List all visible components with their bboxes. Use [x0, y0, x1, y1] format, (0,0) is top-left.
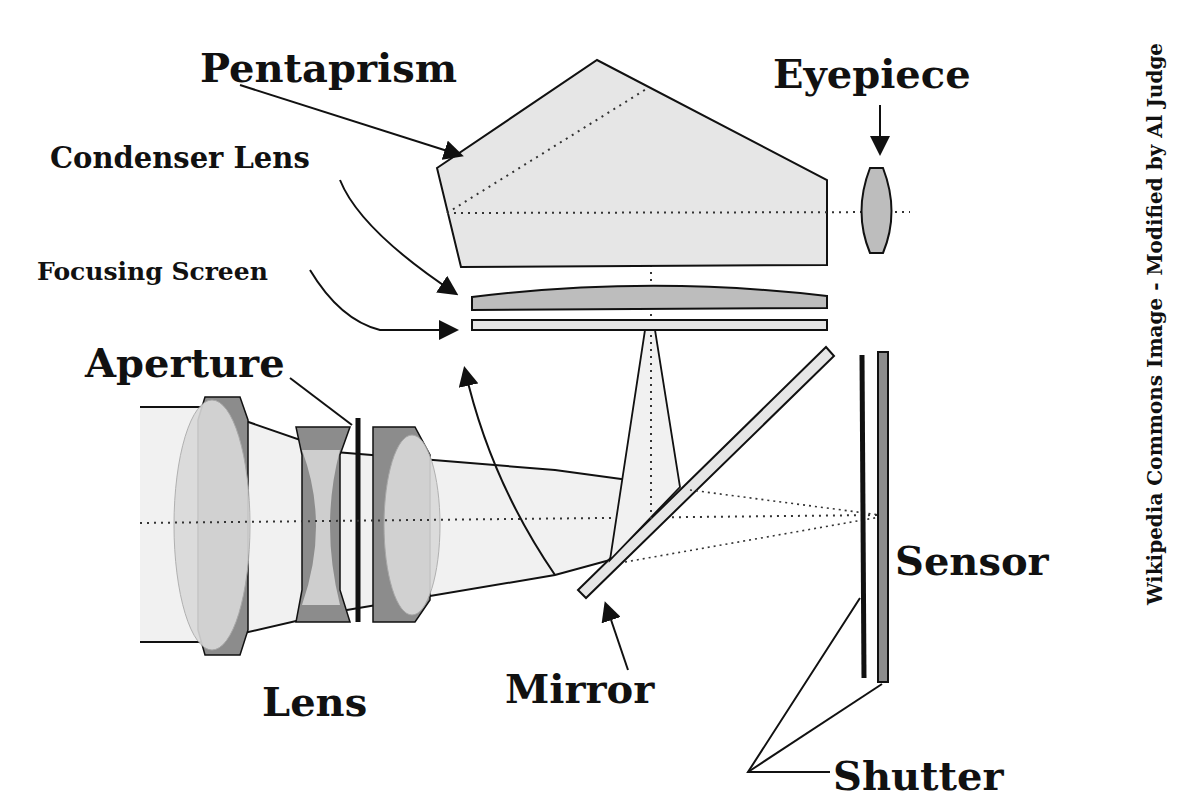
- label-focusing-screen: Focusing Screen: [37, 257, 268, 286]
- credit-text: Wikipedia Commons Image - Modified by Al…: [1143, 43, 1167, 606]
- label-mirror: Mirror: [505, 665, 655, 712]
- label-aperture: Aperture: [84, 339, 285, 386]
- label-pentaprism: Pentaprism: [200, 44, 457, 91]
- label-shutter: Shutter: [833, 752, 1004, 798]
- rear-lens-element: [373, 427, 440, 622]
- condenser-lens: [472, 286, 827, 310]
- label-sensor: Sensor: [895, 537, 1050, 584]
- pentaprism: [437, 60, 827, 267]
- shutter: [862, 355, 864, 678]
- focusing-screen: [472, 320, 827, 330]
- label-lens: Lens: [262, 678, 367, 725]
- label-condenser-lens: Condenser Lens: [50, 141, 310, 175]
- eyepiece-lens: [862, 168, 892, 253]
- sensor: [878, 352, 888, 682]
- mirror: [578, 347, 834, 598]
- label-eyepiece: Eyepiece: [773, 50, 971, 97]
- slr-diagram: Pentaprism Eyepiece Condenser Lens Focus…: [0, 0, 1188, 798]
